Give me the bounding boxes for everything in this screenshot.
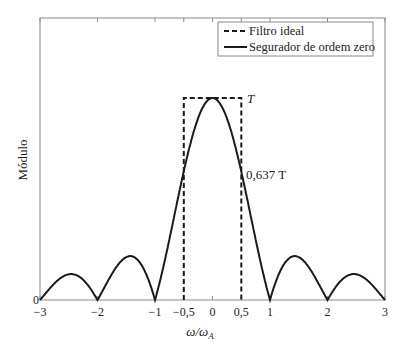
half-value-annotation: 0,637 T — [246, 167, 286, 182]
axis-ticks — [40, 18, 385, 300]
x-tick-label: −2 — [91, 305, 104, 319]
x-tick-label: 0 — [210, 305, 216, 319]
legend-label-ideal: Filtro ideal — [249, 24, 305, 38]
x-tick-label: 1 — [267, 305, 273, 319]
x-axis-label: ω/ωA — [186, 324, 214, 341]
x-tick-label: −3 — [34, 305, 47, 319]
x-tick-label: 0,5 — [234, 305, 249, 319]
zero-order-hold-curve — [40, 98, 385, 300]
ideal-filter-line — [184, 98, 242, 300]
y-axis-label: Módulo — [15, 139, 30, 180]
plot-frame — [40, 18, 385, 300]
legend: Filtro ideal Segurador de ordem zero — [218, 22, 375, 56]
x-tick-label: 2 — [325, 305, 331, 319]
x-tick-label: −0,5 — [173, 305, 195, 319]
x-tick-label: −1 — [149, 305, 162, 319]
peak-annotation: T — [247, 91, 255, 106]
x-tick-label: 3 — [382, 305, 388, 319]
legend-label-zoh: Segurador de ordem zero — [249, 40, 375, 54]
x-tick-labels: −3−2−1−0,500,5123 — [34, 305, 388, 319]
y-tick-label-0: 0 — [33, 293, 39, 307]
chart: −3−2−1−0,500,5123 0 ω/ωA Módulo T 0,637 … — [0, 0, 401, 350]
